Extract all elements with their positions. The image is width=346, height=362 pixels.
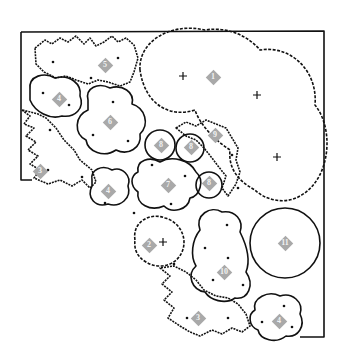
plant-label-4: 4 (100, 183, 116, 199)
plant-label-number: 11 (281, 239, 289, 247)
plant-label-number: 4 (277, 317, 281, 325)
plant-label-8: 8 (153, 137, 169, 153)
plant-label-number: 8 (207, 179, 211, 187)
plant-label-number: 4 (106, 187, 110, 195)
plant-label-2: 2 (141, 237, 157, 253)
plant-label-number: 10 (220, 268, 228, 276)
plant-label-number: 5 (103, 61, 107, 69)
shrub-5 (35, 36, 138, 86)
plant-label-1: 1 (205, 69, 221, 85)
plant-label-number: 1 (211, 73, 215, 81)
plant-label-9: 9 (207, 127, 223, 143)
plant-label-number: 6 (108, 118, 112, 126)
plant-label-5: 5 (97, 57, 113, 73)
plant-label-number: 9 (213, 131, 217, 139)
plant-label-number: 8 (159, 141, 163, 149)
plant-label-4: 4 (51, 91, 67, 107)
plant-label-10: 10 (216, 264, 232, 280)
plant-label-number: 8 (189, 143, 193, 151)
plant-label-number: 3 (38, 167, 42, 175)
tree-1-canopy (140, 28, 327, 200)
plant-label-7: 7 (160, 177, 176, 193)
plant-label-4: 4 (271, 313, 287, 329)
plant-label-11: 11 (277, 235, 293, 251)
plant-label-3: 3 (190, 310, 206, 326)
plant-label-number: 7 (166, 181, 170, 189)
plant-label-8: 8 (183, 139, 199, 155)
shrub-10 (191, 210, 250, 302)
plant-label-6: 6 (102, 114, 118, 130)
plant-label-number: 3 (196, 314, 200, 322)
plant-label-number: 4 (57, 95, 61, 103)
plant-label-3: 3 (32, 163, 48, 179)
plant-label-number: 2 (147, 241, 151, 249)
plant-label-8: 8 (201, 175, 217, 191)
